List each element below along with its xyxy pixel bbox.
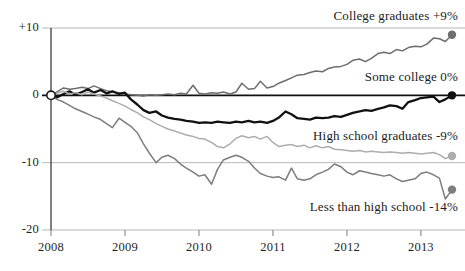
series-label-high-school-graduates: High school graduates -9% (0, 128, 458, 144)
y-tick-label-minus10: -10 (5, 155, 39, 170)
y-tick-label-minus20: -20 (5, 222, 39, 237)
series-label-less-than-high-school: Less than high school -14% (0, 199, 458, 215)
x-tick-label-2013: 2013 (398, 240, 444, 255)
x-tick-label-2008: 2008 (28, 240, 74, 255)
x-tick-label-2010: 2010 (176, 240, 222, 255)
employment-by-education-chart: +10 0 -10 -20 2008 2009 2010 2011 2012 2… (0, 0, 465, 271)
series-label-college-graduates: College graduates +9% (0, 8, 458, 24)
x-tick-label-2012: 2012 (324, 240, 370, 255)
series-end-markers (47, 31, 456, 194)
x-tick-label-2011: 2011 (250, 240, 296, 255)
series-label-some-college: Some college 0% (0, 69, 458, 85)
y-tick-label-0: 0 (5, 87, 39, 102)
x-axis-ticks (51, 230, 421, 236)
series-lines (51, 35, 452, 199)
x-tick-label-2009: 2009 (102, 240, 148, 255)
